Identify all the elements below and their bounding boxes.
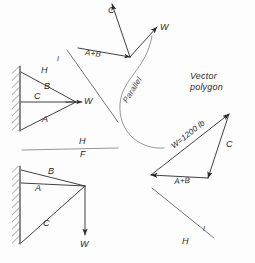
construction-line-i-top — [67, 50, 118, 122]
label-h-divider: H — [79, 137, 86, 146]
label-w-lower: W — [80, 240, 89, 249]
vector-w-top — [130, 27, 157, 57]
figure-canvas: C W A+B I H B C A W H F B A C W Parallel… — [0, 0, 255, 263]
sketch-vectors — [0, 0, 255, 263]
label-h-polygon: H — [182, 237, 189, 246]
top-joint-vectors — [67, 4, 157, 122]
label-i-polygon: I — [203, 225, 205, 232]
label-i-top: I — [57, 55, 59, 62]
label-c-lower: C — [43, 219, 50, 228]
wall-hatching-upper — [12, 66, 20, 131]
label-ab-polygon: A+B — [174, 177, 190, 186]
label-f-divider: F — [80, 150, 86, 159]
reference-line-hf — [22, 148, 118, 150]
label-a-upper: A — [42, 115, 48, 124]
member-c-lower — [21, 186, 85, 243]
label-c-polygon: C — [226, 140, 233, 149]
polygon-vector-w — [151, 114, 229, 175]
wall-hatching-lower — [12, 166, 20, 244]
lower-truss — [12, 166, 85, 244]
label-w-top: W — [160, 23, 169, 32]
label-h-upper: H — [41, 66, 48, 75]
label-b-lower: B — [48, 167, 54, 176]
member-a-upper — [21, 102, 76, 130]
label-vector-polygon-line1: Vector — [190, 72, 217, 81]
label-c-upper: C — [34, 92, 41, 101]
label-b-upper: B — [44, 82, 50, 91]
label-c-top: C — [108, 6, 115, 15]
label-vector-polygon-line2: polygon — [190, 83, 223, 92]
label-w-upper: W — [84, 97, 93, 106]
label-a-lower: A — [35, 184, 41, 193]
